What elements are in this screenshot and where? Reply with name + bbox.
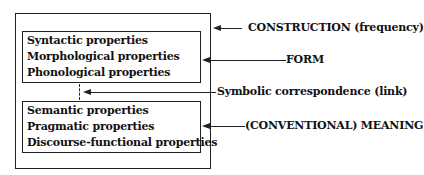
construction-label: CONSTRUCTION (frequency) [248,21,424,35]
meaning-property-discourse-functional: Discourse-functional properties [27,135,217,151]
form-property-morphological: Morphological properties [27,49,180,65]
form-property-phonological: Phonological properties [27,65,170,81]
construction-arrow-line [220,28,242,29]
form-property-syntactic: Syntactic properties [27,33,148,49]
form-box: Syntactic properties Morphological prope… [22,31,201,83]
meaning-box: Semantic properties Pragmatic properties… [22,101,201,153]
meaning-property-pragmatic: Pragmatic properties [27,119,154,135]
form-label: FORM [286,53,324,67]
meaning-label: (CONVENTIONAL) MEANING [245,119,423,133]
meaning-property-semantic: Semantic properties [27,103,148,119]
symbolic-link-dashed-line [79,84,80,100]
link-arrow-line [90,92,216,93]
meaning-arrow-line [209,126,245,127]
link-label: Symbolic correspondence (link) [217,85,407,99]
form-arrow-line [209,60,286,61]
